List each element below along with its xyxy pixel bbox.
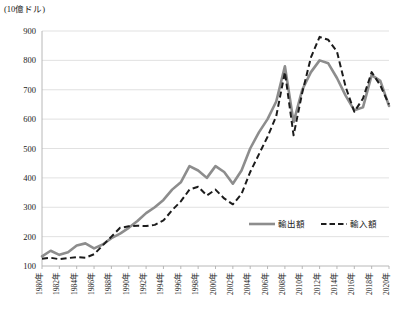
- chart-figure: (10億ドル) 100200300400500600700800900 1980…: [0, 0, 397, 311]
- y-tick-label: 900: [23, 26, 36, 36]
- x-tick-label: 2010年: [294, 272, 304, 295]
- x-tick-label: 1982年: [51, 272, 61, 295]
- y-tick-label: 300: [23, 202, 36, 212]
- y-tick-label: 400: [23, 173, 36, 183]
- legend-label-imports: 輸入額: [350, 219, 377, 229]
- x-tick-label: 2000年: [208, 272, 218, 295]
- x-tick-label: 1996年: [173, 272, 183, 295]
- x-tick-label: 2004年: [242, 272, 252, 295]
- y-tick-label: 800: [23, 55, 36, 65]
- x-tick-label: 1984年: [69, 272, 79, 295]
- series-line-imports: [42, 37, 389, 259]
- x-tick-label: 2014年: [329, 272, 339, 295]
- x-tick-label: 2006年: [260, 272, 270, 295]
- x-tick-label: 1992年: [138, 272, 148, 295]
- x-tick-label: 2002年: [225, 272, 235, 295]
- x-tick-label: 2012年: [312, 272, 322, 295]
- chart-legend: 輸出額輸入額: [249, 219, 377, 229]
- x-tick-label: 1986年: [86, 272, 96, 295]
- x-tick-label: 1990年: [121, 272, 131, 295]
- line-chart-plot: 100200300400500600700800900 1980年1982年19…: [0, 0, 397, 311]
- y-tick-label: 100: [23, 261, 36, 271]
- x-tick-label: 2020年: [381, 272, 391, 295]
- x-tick-label: 1998年: [190, 272, 200, 295]
- x-tick-label: 2018年: [364, 272, 374, 295]
- x-axis-tick-labels: 1980年1982年1984年1986年1988年1990年1992年1994年…: [34, 272, 391, 295]
- legend-label-exports: 輸出額: [278, 219, 305, 229]
- y-tick-label: 200: [23, 232, 36, 242]
- y-tick-label: 700: [23, 85, 36, 95]
- x-tick-label: 1988年: [103, 272, 113, 295]
- y-tick-label: 600: [23, 114, 36, 124]
- x-tick-label: 2016年: [346, 272, 356, 295]
- x-tick-label: 1994年: [155, 272, 165, 295]
- y-axis-tick-labels: 100200300400500600700800900: [23, 26, 36, 271]
- x-tick-label: 1980年: [34, 272, 44, 295]
- y-tick-label: 500: [23, 144, 36, 154]
- x-tick-label: 2008年: [277, 272, 287, 295]
- gridlines: [42, 31, 389, 269]
